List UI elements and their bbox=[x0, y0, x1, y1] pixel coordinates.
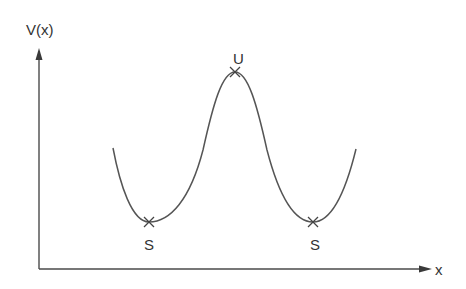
label-unstable: U bbox=[233, 50, 244, 67]
potential-curve bbox=[113, 72, 356, 222]
y-axis-label: V(x) bbox=[26, 21, 54, 38]
label-stable-right: S bbox=[310, 236, 320, 253]
axes bbox=[36, 48, 433, 273]
x-axis-arrow-icon bbox=[419, 266, 432, 273]
x-axis-label: x bbox=[435, 261, 443, 278]
label-stable-left: S bbox=[144, 236, 154, 253]
y-axis-arrow-icon bbox=[36, 48, 43, 60]
potential-diagram: V(x) x S U S bbox=[0, 0, 466, 289]
cross-marker-maximum-icon bbox=[230, 67, 240, 77]
